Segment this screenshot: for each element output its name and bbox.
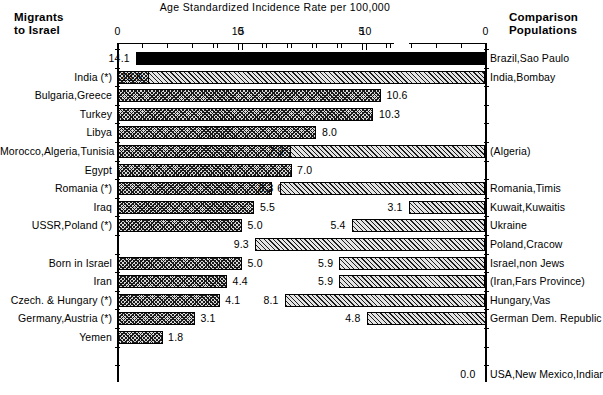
right-category-label: (Algeria) <box>490 145 603 157</box>
axis-tick-label: 10 <box>226 25 250 37</box>
right-bar-value: 0.0 <box>448 368 476 380</box>
axis-tick <box>262 44 263 48</box>
left-bar <box>118 312 195 325</box>
right-category-label: German Dem. Republic <box>490 312 603 324</box>
left-category-label: Libya <box>0 126 112 138</box>
chart-row: Romania (*)6.28.3Romania,Timis <box>0 181 603 197</box>
right-baseline-notch <box>484 142 489 143</box>
axis-tick <box>291 44 292 48</box>
left-baseline-notch <box>115 86 120 87</box>
right-baseline-notch <box>484 365 489 366</box>
left-category-label: Romania (*) <box>0 182 112 194</box>
left-bar-value: 3.1 <box>200 312 215 324</box>
right-category-label: Ukraine <box>490 219 603 231</box>
left-baseline-notch <box>115 198 120 199</box>
left-bar-value: 5.0 <box>248 219 263 231</box>
right-baseline-notch <box>484 161 489 162</box>
right-bar <box>367 312 486 325</box>
left-baseline-notch <box>115 365 120 366</box>
right-baseline-notch <box>484 309 489 310</box>
left-bar <box>118 331 163 344</box>
left-bar-value: 7.0 <box>297 164 312 176</box>
right-baseline-notch <box>484 179 489 180</box>
right-baseline-notch <box>484 198 489 199</box>
right-category-label: Poland,Cracow <box>490 238 603 250</box>
left-bar-value: 8.0 <box>322 126 337 138</box>
right-baseline-notch <box>484 328 489 329</box>
chart-row: Czech. & Hungary (*)4.18.1Hungary,Vas <box>0 293 603 309</box>
axis-tick <box>142 44 143 48</box>
left-category-label: Turkey <box>0 108 112 120</box>
axis-tick <box>287 44 288 48</box>
left-bar <box>118 257 242 270</box>
right-bar <box>148 71 485 84</box>
chart-row: India (*)11.313.6India,Bombay <box>0 70 603 86</box>
right-bar-value: 8.1 <box>251 294 279 306</box>
right-category-label: India,Bombay <box>490 71 603 83</box>
axis-tick <box>366 44 367 50</box>
right-bar <box>339 275 485 288</box>
left-panel-header: Migrants to Israel <box>14 11 110 37</box>
right-baseline-notch <box>484 216 489 217</box>
right-panel-header-line2: Populations <box>509 24 603 37</box>
left-bar <box>118 294 220 307</box>
left-bar <box>118 89 381 102</box>
chart-row: Bulgaria,Greece10.6 <box>0 88 603 104</box>
left-category-label: India (*) <box>0 71 112 83</box>
axis-tick <box>312 44 313 48</box>
axis-tick <box>341 44 342 48</box>
right-bar-value: 8.3 <box>246 182 274 194</box>
axis-tick <box>362 44 363 50</box>
right-baseline-notch <box>484 105 489 106</box>
left-baseline-notch <box>115 123 120 124</box>
right-category-label: Kuwait,Kuwaitis <box>490 201 603 213</box>
chart-title: Age Standardized Incidence Rate per 100,… <box>145 1 405 13</box>
axis-tick-label: 0 <box>474 25 498 37</box>
left-baseline-notch <box>115 105 120 106</box>
left-baseline-notch <box>115 179 120 180</box>
right-baseline-notch <box>484 86 489 87</box>
right-category-label: Brazil,Sao Paulo <box>490 52 603 64</box>
left-category-label: Yemen <box>0 331 112 343</box>
right-baseline-notch <box>484 68 489 69</box>
chart-row: 14.1Brazil,Sao Paulo <box>0 51 603 67</box>
right-baseline-notch <box>484 291 489 292</box>
axis-tick <box>167 44 168 48</box>
left-baseline-notch <box>115 328 120 329</box>
left-baseline-notch <box>115 161 120 162</box>
left-category-label: Morocco,Algeria,Tunisia <box>0 145 112 157</box>
axis-tick <box>386 44 387 48</box>
left-category-label: Born in Israel <box>0 257 112 269</box>
left-category-label: Egypt <box>0 164 112 176</box>
axis-tick <box>266 44 267 48</box>
left-panel-header-line1: Migrants <box>14 11 110 24</box>
right-bar-value: 13.6 <box>114 71 142 83</box>
left-category-label: Germany,Austria (*) <box>0 312 112 324</box>
right-baseline-notch <box>484 254 489 255</box>
left-category-label: Iraq <box>0 201 112 213</box>
left-baseline-notch <box>115 309 120 310</box>
left-baseline-notch <box>115 272 120 273</box>
right-bar <box>285 294 486 307</box>
right-bar-value: 14.1 <box>102 52 130 64</box>
right-axis-line <box>409 43 485 44</box>
left-baseline-notch <box>115 235 120 236</box>
right-bar-value: 5.9 <box>305 257 333 269</box>
chart-row: Iraq5.53.1Kuwait,Kuwaitis <box>0 200 603 216</box>
right-category-label: Israel,non Jews <box>490 257 603 269</box>
axis-tick-label: 0 <box>106 25 130 37</box>
left-bar <box>118 108 373 121</box>
chart-row: Morocco,Algeria,Tunisia7.17.9(Algeria) <box>0 144 603 160</box>
axis-tick <box>242 44 243 50</box>
incidence-rate-chart: Age Standardized Incidence Rate per 100,… <box>0 0 603 395</box>
left-axis-line <box>117 43 394 44</box>
right-bar <box>339 257 485 270</box>
axis-tick <box>461 44 462 48</box>
left-bar <box>118 219 242 232</box>
right-panel-header-line1: Comparison <box>509 11 603 24</box>
left-bar-value: 5.0 <box>248 257 263 269</box>
chart-row: Libya8.0 <box>0 125 603 141</box>
right-bar-value: 5.9 <box>305 275 333 287</box>
right-bar <box>409 201 486 214</box>
axis-tick <box>411 44 412 48</box>
